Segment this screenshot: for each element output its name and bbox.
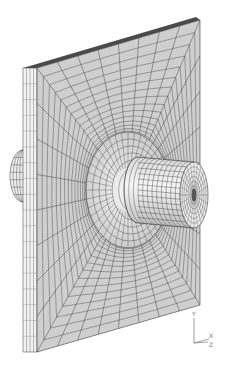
triad-x-label: X: [209, 332, 213, 339]
front-pin: [124, 157, 208, 228]
fe-mesh-figure: Y X Z: [0, 0, 225, 373]
triad-y-label: Y: [191, 310, 196, 317]
axis-triad: Y X Z: [191, 310, 213, 348]
triad-z-label: Z: [209, 341, 213, 348]
